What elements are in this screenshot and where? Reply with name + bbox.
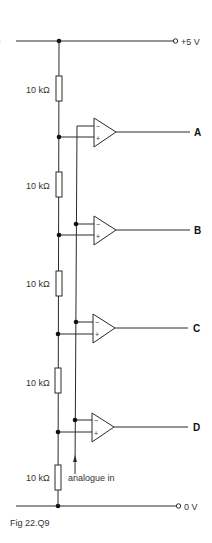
comparator-c-plus: + <box>95 331 99 338</box>
supply-bottom-label: 0 V <box>184 502 198 512</box>
resistor-2 <box>56 172 62 197</box>
analogue-in-arrow-icon <box>73 455 77 462</box>
comparator-b-plus: + <box>96 233 100 240</box>
output-a-label: A <box>194 127 201 138</box>
junction-b-input <box>74 222 79 227</box>
junction-d <box>56 430 61 435</box>
analogue-in-label: analogue in <box>68 473 115 483</box>
resistor-3 <box>56 271 62 296</box>
resistor-4 <box>55 368 61 393</box>
resistor-1-label: 10 kΩ <box>26 85 50 95</box>
comparator-b: − + B <box>57 216 202 245</box>
comparator-c: − + C <box>56 314 201 343</box>
comparator-d-minus: − <box>94 417 98 424</box>
comparator-d: − + D <box>56 413 201 442</box>
comparator-c-minus: − <box>95 319 99 326</box>
resistor-5-label: 10 kΩ <box>26 473 50 483</box>
resistor-5 <box>55 465 61 490</box>
resistor-3-label: 10 kΩ <box>26 279 50 289</box>
comparator-a-plus: + <box>96 135 100 142</box>
resistor-1 <box>56 76 62 101</box>
junction-c-input <box>74 320 79 325</box>
resistor-2-label: 10 kΩ <box>26 181 50 191</box>
output-d-label: D <box>193 422 200 433</box>
figure-caption: Fig 22.Q9 <box>10 518 50 528</box>
output-c-label: C <box>193 323 200 334</box>
circuit-diagram: ) +5 V 0 V 10 kΩ 10 kΩ 10 kΩ 10 kΩ 10 kΩ… <box>0 0 212 543</box>
terminal-bottom <box>176 504 180 508</box>
comparator-b-minus: − <box>96 221 100 228</box>
junction-a <box>57 135 62 140</box>
output-b-label: B <box>194 225 201 236</box>
resistor-4-label: 10 kΩ <box>26 378 50 388</box>
junction-d-input <box>73 418 78 423</box>
junction-b <box>57 233 62 238</box>
comparator-a: − + A <box>57 118 202 147</box>
junction-c <box>56 332 61 337</box>
comparator-d-plus: + <box>94 430 98 437</box>
terminal-top <box>173 39 177 43</box>
comparator-a-minus: − <box>96 123 100 130</box>
supply-top-label: +5 V <box>181 37 200 47</box>
